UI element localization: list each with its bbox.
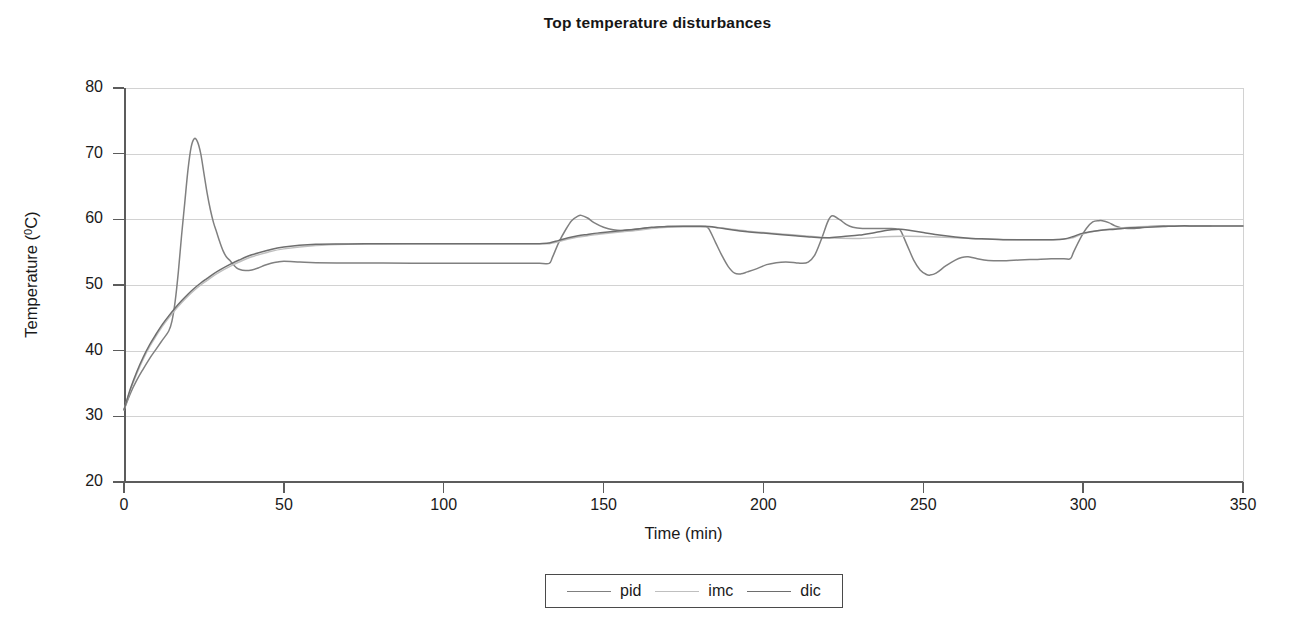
x-axis-tick-label: 200 (723, 496, 803, 514)
x-axis-tick-label: 0 (84, 496, 164, 514)
gridline-horizontal (124, 416, 1243, 417)
gridline-vertical-right (1243, 88, 1244, 482)
x-axis-tick (923, 482, 925, 493)
y-axis-tick-label: 20 (33, 472, 103, 490)
x-axis-line (124, 481, 1243, 483)
y-axis-tick-label: 30 (33, 406, 103, 424)
x-axis-tick (1082, 482, 1084, 493)
y-axis-tick-label: 50 (33, 275, 103, 293)
gridline-horizontal (124, 154, 1243, 155)
y-axis-tick (113, 350, 124, 352)
y-axis-tick (113, 416, 124, 418)
x-axis-tick (603, 482, 605, 493)
y-axis-tick-label: 70 (33, 144, 103, 162)
chart-title: Top temperature disturbances (0, 14, 1315, 32)
y-axis-tick (113, 87, 124, 89)
x-axis-tick-label: 100 (404, 496, 484, 514)
y-axis-label: Temperature (0C) (22, 155, 41, 395)
x-axis-tick-label: 150 (564, 496, 644, 514)
y-axis-tick (113, 284, 124, 286)
x-axis-tick-label: 300 (1043, 496, 1123, 514)
legend-label-pid: pid (620, 582, 641, 600)
x-axis-tick-label: 350 (1203, 496, 1283, 514)
y-axis-tick-label: 60 (33, 209, 103, 227)
x-axis-tick (1242, 482, 1244, 493)
y-axis-tick (113, 153, 124, 155)
x-axis-tick (763, 482, 765, 493)
legend-label-imc: imc (708, 582, 733, 600)
y-axis-tick (113, 219, 124, 221)
legend-swatch-imc (655, 591, 699, 592)
y-axis-line (124, 88, 126, 482)
gridline-horizontal (124, 351, 1243, 352)
legend-swatch-pid (567, 591, 611, 592)
legend-entry-pid[interactable]: pid (567, 582, 641, 600)
legend-entry-imc[interactable]: imc (655, 582, 733, 600)
y-axis-tick-label: 40 (33, 341, 103, 359)
x-axis-tick (123, 482, 125, 493)
legend-swatch-dic (747, 591, 791, 592)
chart-legend: pidimcdic (545, 574, 843, 608)
x-axis-tick (443, 482, 445, 493)
gridline-horizontal (124, 285, 1243, 286)
x-axis-label: Time (min) (124, 524, 1243, 543)
y-axis-tick-label: 80 (33, 78, 103, 96)
x-axis-tick (283, 482, 285, 493)
x-axis-tick-label: 250 (883, 496, 963, 514)
chart-figure: Top temperature disturbances 20304050607… (0, 0, 1315, 634)
gridline-horizontal (124, 219, 1243, 220)
legend-entry-dic[interactable]: dic (747, 582, 820, 600)
x-axis-tick-label: 50 (244, 496, 324, 514)
gridline-horizontal (124, 88, 1243, 89)
legend-label-dic: dic (800, 582, 820, 600)
